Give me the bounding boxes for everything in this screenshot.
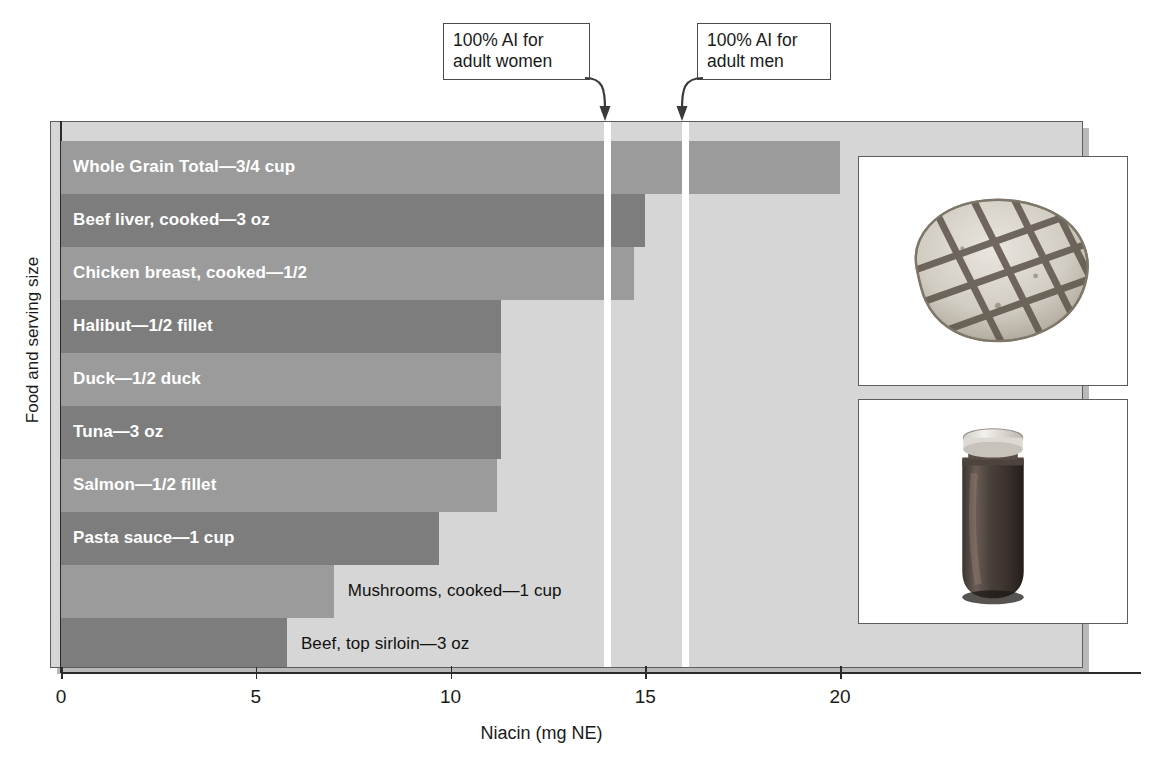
- x-axis-tick-label: 10: [440, 686, 461, 708]
- chart-figure: Food and serving size Whole Grain Total—…: [0, 0, 1176, 764]
- bar-label: Halibut—1/2 fillet: [73, 316, 213, 336]
- bar-label: Beef, top sirloin—3 oz: [301, 634, 470, 654]
- x-axis-tick-label: 15: [635, 686, 656, 708]
- x-axis-tick: [256, 666, 258, 679]
- x-axis-tick-label: 20: [829, 686, 850, 708]
- y-axis-title: Food and serving size: [23, 225, 43, 455]
- photo-grilled-chicken-breast: [858, 156, 1128, 386]
- x-axis-tick: [840, 666, 842, 679]
- bar: [61, 565, 334, 618]
- x-axis-tick: [61, 666, 63, 679]
- x-axis-line: [61, 672, 1141, 674]
- bar-label: Duck—1/2 duck: [73, 369, 201, 389]
- bar-label: Tuna—3 oz: [73, 422, 163, 442]
- callout-ai-women: 100% AI for adult women: [443, 23, 590, 80]
- annotation-line-ai-men: [682, 122, 689, 667]
- bar-label: Pasta sauce—1 cup: [73, 528, 234, 548]
- callout-women-arrow-icon: [583, 75, 623, 123]
- callout-men-arrow-icon: [655, 75, 705, 123]
- x-axis-tick: [451, 666, 453, 679]
- bar-label: Chicken breast, cooked—1/2: [73, 263, 307, 283]
- bar-label: Salmon—1/2 fillet: [73, 475, 216, 495]
- callout-ai-men: 100% AI for adult men: [697, 23, 831, 80]
- bar-label: Beef liver, cooked—3 oz: [73, 210, 270, 230]
- x-axis-tick: [645, 666, 647, 679]
- photo-pasta-sauce-jar: [858, 399, 1128, 624]
- x-axis-title: Niacin (mg NE): [0, 723, 1083, 744]
- x-axis-tick-label: 0: [56, 686, 67, 708]
- x-axis-tick-label: 5: [250, 686, 261, 708]
- bar: [61, 618, 287, 668]
- bar-label: Mushrooms, cooked—1 cup: [348, 581, 562, 601]
- bar-label: Whole Grain Total—3/4 cup: [73, 157, 295, 177]
- annotation-line-ai-women: [604, 122, 611, 667]
